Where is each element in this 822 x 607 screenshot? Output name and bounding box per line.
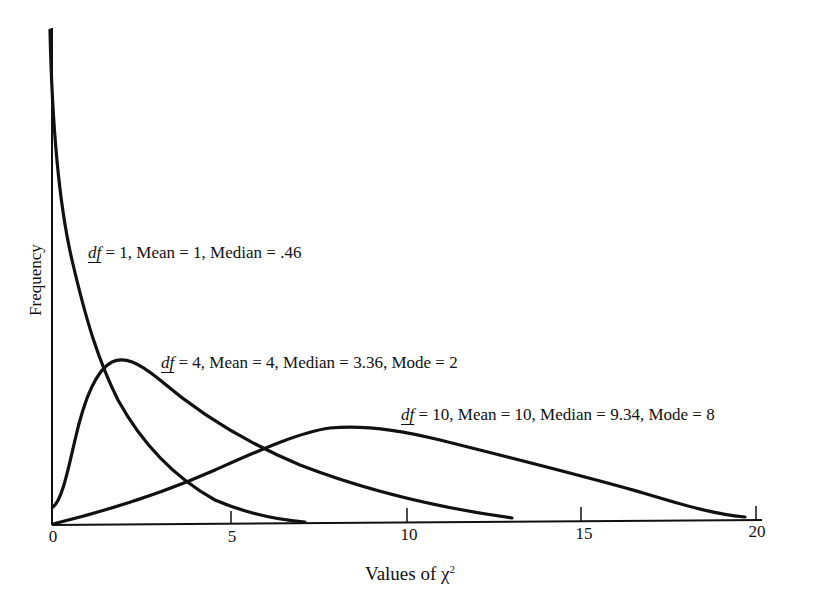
curves bbox=[50, 30, 745, 524]
annotation-df-10: df = 10, Mean = 10, Median = 9.34, Mode … bbox=[401, 405, 715, 425]
df-label: df bbox=[401, 405, 414, 424]
df-label: df bbox=[88, 243, 101, 262]
x-tick-label-5: 5 bbox=[228, 527, 237, 547]
curve-df-4 bbox=[53, 360, 512, 518]
x-tick-label-10: 10 bbox=[401, 525, 418, 545]
y-axis-title: Frequency bbox=[26, 244, 46, 316]
df-label: df bbox=[161, 353, 174, 372]
x-tick-label-15: 15 bbox=[576, 524, 593, 544]
axes bbox=[52, 28, 762, 525]
x-tick-label-20: 20 bbox=[749, 522, 766, 542]
annotation-text: = 1, Mean = 1, Median = .46 bbox=[101, 243, 301, 262]
annotation-df-1: df = 1, Mean = 1, Median = .46 bbox=[88, 243, 301, 263]
annotation-df-4: df = 4, Mean = 4, Median = 3.36, Mode = … bbox=[161, 353, 458, 373]
x-tick-label-0: 0 bbox=[49, 527, 58, 547]
x-axis-title-superscript: 2 bbox=[449, 563, 455, 575]
chart-canvas bbox=[0, 0, 822, 607]
x-axis-title-text: Values of χ bbox=[365, 563, 449, 584]
annotation-text: = 10, Mean = 10, Median = 9.34, Mode = 8 bbox=[414, 405, 714, 424]
x-axis-title: Values of χ2 bbox=[365, 563, 455, 585]
curve-df-10 bbox=[53, 427, 745, 524]
annotation-text: = 4, Mean = 4, Median = 3.36, Mode = 2 bbox=[174, 353, 457, 372]
